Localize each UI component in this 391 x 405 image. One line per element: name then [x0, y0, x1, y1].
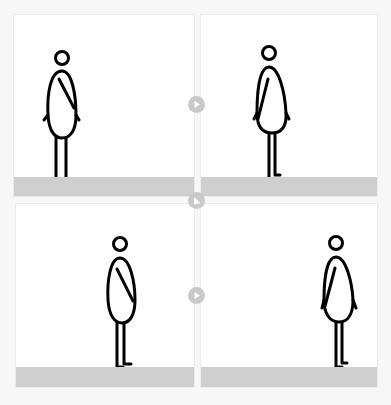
panel-4	[200, 203, 378, 388]
ground-strip	[14, 177, 194, 196]
panel-1	[13, 14, 195, 197]
stick-figure	[14, 15, 195, 197]
arrow-right-icon	[188, 287, 205, 304]
stick-figure	[201, 15, 378, 197]
head-icon	[114, 238, 127, 251]
body-shape	[108, 258, 135, 323]
ground-strip	[16, 367, 194, 387]
ground-strip	[201, 367, 377, 387]
ground-strip	[201, 177, 377, 196]
stick-figure	[16, 204, 195, 388]
stick-figure	[201, 204, 378, 388]
panel-3	[15, 203, 195, 388]
arrow-down-left-icon	[188, 192, 205, 209]
head-icon	[330, 237, 343, 250]
arrow-right-icon	[188, 96, 205, 113]
head-icon	[56, 52, 69, 65]
panel-2	[200, 14, 378, 197]
head-icon	[263, 47, 276, 60]
